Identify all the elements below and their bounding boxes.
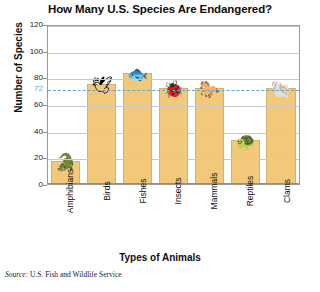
gridline	[48, 159, 299, 160]
x-axis-label-slot: Birds	[87, 187, 116, 245]
y-axis-tick-mark	[42, 25, 47, 26]
x-axis-label-slot: Amphibians	[50, 187, 79, 245]
source-prefix: Source:	[5, 270, 28, 279]
fish-icon: 🐟	[127, 66, 148, 83]
x-axis-label-slot: Fishes	[123, 187, 152, 245]
gridline	[48, 133, 299, 134]
bar[interactable]: 🕊	[87, 84, 116, 184]
x-axis-label-slot: Insects	[159, 187, 188, 245]
reference-line-72	[48, 90, 299, 91]
y-axis-tick-label: 0	[19, 180, 43, 189]
x-axis-tick-label: Clams	[282, 179, 292, 203]
plot-area: 🐊🕊🐟🐞🐎🐢🐚	[47, 25, 300, 185]
y-axis-tick-label: 40	[19, 127, 43, 136]
x-axis-label-slot: Reptiles	[231, 187, 260, 245]
y-axis-tick-label: 60	[19, 100, 43, 109]
x-axis-tick-label: Insects	[173, 178, 183, 205]
bar[interactable]: 🐎	[195, 88, 224, 184]
y-axis-tick-label: 120	[19, 20, 43, 29]
y-axis-tick-label: 20	[19, 153, 43, 162]
reference-line-label: 72	[19, 84, 43, 93]
bar[interactable]: 🐞	[159, 88, 188, 184]
y-axis-tick-mark	[42, 185, 47, 186]
bar[interactable]: 🐚	[266, 88, 295, 184]
gridline	[48, 53, 299, 54]
y-axis-tick-label: 100	[19, 47, 43, 56]
turtle-icon: 🐢	[235, 133, 256, 150]
x-axis-tick-label: Mammals	[210, 173, 220, 210]
y-axis-tick-mark	[42, 158, 47, 159]
x-axis-title: Types of Animals	[0, 252, 320, 263]
gridline	[48, 106, 299, 107]
x-axis-tick-label: Reptiles	[246, 176, 256, 207]
source-note: Source: U.S. Fish and Wildlife Service	[5, 270, 122, 279]
x-axis-tick-labels: AmphibiansBirdsFishesInsectsMammalsRepti…	[47, 187, 300, 245]
chart-container: How Many U.S. Species Are Endangered? 🐊🕊…	[0, 0, 320, 292]
source-text: U.S. Fish and Wildlife Service	[30, 270, 122, 279]
x-axis-tick-label: Amphibians	[65, 169, 75, 213]
y-axis-tick-mark	[42, 105, 47, 106]
y-axis-tick-mark	[42, 78, 47, 79]
x-axis-tick-label: Birds	[101, 181, 111, 200]
y-axis-tick-label: 80	[19, 73, 43, 82]
y-axis-tick-mark	[42, 52, 47, 53]
gridline	[48, 79, 299, 80]
chart-title: How Many U.S. Species Are Endangered?	[0, 3, 320, 15]
y-axis-tick-mark	[42, 132, 47, 133]
x-axis-label-slot: Mammals	[195, 187, 224, 245]
gridline	[48, 26, 299, 27]
x-axis-label-slot: Clams	[267, 187, 296, 245]
x-axis-tick-label: Fishes	[137, 178, 147, 203]
